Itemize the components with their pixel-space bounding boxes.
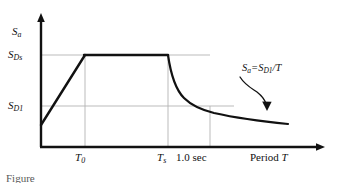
gridlines [41, 55, 234, 147]
y-tick-label-sds-sub: Ds [14, 53, 23, 62]
x-tick-label-t0-sub: 0 [81, 156, 85, 165]
x-tick-label-t0: T0 [75, 151, 85, 165]
y-tick-label-sds: SDs [8, 48, 22, 62]
response-spectrum-figure: Sa SDs SD1 T0 Ts 1.0 sec Period T Sa=SD1… [0, 0, 340, 183]
y-axis-arrowhead [37, 13, 45, 22]
figure-caption-fragment: Figure [6, 172, 35, 183]
y-tick-label-sd1: SD1 [8, 99, 23, 113]
x-axis-title-variable: T [281, 151, 287, 163]
y-tick-label-sd1-sub: D1 [14, 104, 24, 113]
formula-rhs-sub: D1 [263, 66, 272, 75]
axes [37, 13, 325, 151]
curve-ascending-branch [41, 55, 85, 125]
x-tick-label-one-second: 1.0 sec [176, 151, 207, 163]
annotation-arrowhead [262, 102, 271, 112]
annotation-curved-arrow [240, 77, 272, 111]
spectrum-plot-canvas [0, 0, 340, 183]
x-axis-title-word: Period [250, 151, 279, 163]
y-axis-label-sa: Sa [12, 25, 21, 39]
annotation-formula-sa-equals-sd1-over-t: Sa=SD1/T [242, 62, 281, 75]
x-axis-arrowhead [316, 143, 325, 151]
formula-tail: /T [273, 62, 282, 73]
annotation-arrow-shaft [240, 77, 266, 104]
x-axis-title-period: Period T [250, 151, 288, 163]
y-axis-label-sa-sub: a [18, 30, 22, 39]
x-tick-label-ts-sub: s [163, 156, 166, 165]
x-tick-label-ts: Ts [157, 151, 166, 165]
